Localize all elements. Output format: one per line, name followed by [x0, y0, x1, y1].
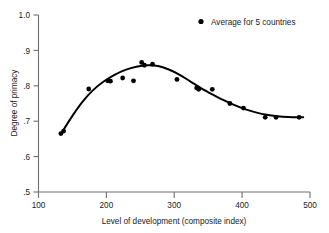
y-tick-label-0.6: .6: [23, 153, 30, 162]
x-tick-label-100: 100: [32, 201, 46, 210]
data-point: [274, 115, 279, 120]
data-point: [86, 87, 91, 92]
fitted-trend-curve: [62, 65, 304, 133]
y-tick-label-0.8: .8: [23, 82, 30, 91]
data-point: [175, 77, 180, 82]
y-tick-label-0.7: .7: [23, 117, 30, 126]
data-point: [108, 79, 113, 84]
data-point: [297, 115, 302, 120]
data-point: [228, 101, 233, 106]
y-tick-label-1.0: 1.0: [19, 11, 31, 20]
x-axis-tick-labels: 100 200 300 400 500: [32, 201, 318, 210]
y-axis-title: Degree of primacy: [10, 69, 19, 137]
data-point: [210, 87, 215, 92]
data-point: [131, 78, 136, 83]
chart-figure: 1.0 .9 .8 .7 .6 .5 100 200 300 400 500 L…: [0, 0, 329, 233]
data-point: [150, 62, 155, 67]
data-point: [196, 87, 201, 92]
x-tick-label-500: 500: [303, 201, 317, 210]
legend-marker-filled-circle-icon: [198, 19, 203, 24]
legend-label-average-for-5-countries: Average for 5 countries: [211, 18, 296, 27]
x-tick-label-300: 300: [167, 201, 181, 210]
x-axis-ticks: [39, 192, 311, 198]
x-axis-title: Level of development (composite index): [102, 217, 247, 226]
legend: Average for 5 countries: [198, 18, 295, 27]
x-tick-label-400: 400: [235, 201, 249, 210]
data-point: [142, 63, 147, 68]
x-tick-label-200: 200: [100, 201, 114, 210]
scatter-plot-canvas: 1.0 .9 .8 .7 .6 .5 100 200 300 400 500 L…: [0, 0, 329, 233]
y-axis-ticks: [34, 15, 39, 192]
data-point: [61, 129, 66, 134]
y-tick-label-0.5: .5: [23, 188, 30, 197]
data-point: [263, 115, 268, 120]
y-axis-tick-labels: 1.0 .9 .8 .7 .6 .5: [19, 11, 31, 197]
axes-group: [39, 15, 311, 192]
y-tick-label-0.9: .9: [23, 47, 30, 56]
data-point: [120, 76, 125, 81]
data-points-group: [59, 60, 302, 136]
data-point: [241, 106, 246, 111]
